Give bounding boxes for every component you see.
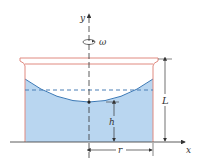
L-label: L — [161, 95, 169, 106]
x-axis-label: x — [186, 145, 191, 155]
vertex-point — [87, 100, 90, 103]
omega-label: ω — [99, 37, 107, 47]
r-label: r — [118, 145, 123, 155]
rotating-liquid-diagram: x y ω h L r — [0, 0, 200, 161]
h-label: h — [109, 117, 115, 127]
y-axis-label: y — [79, 13, 86, 23]
